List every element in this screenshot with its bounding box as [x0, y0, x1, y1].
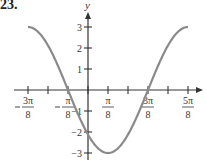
svg-text:8: 8 — [146, 109, 151, 120]
svg-text:8: 8 — [186, 109, 191, 120]
svg-text:π: π — [105, 95, 110, 106]
y-tick-label: 1 — [77, 64, 82, 75]
svg-text:5π: 5π — [183, 95, 193, 106]
svg-text:3π: 3π — [23, 95, 33, 106]
y-tick-label: −3 — [71, 148, 82, 159]
y-axis-arrow-icon — [85, 12, 91, 19]
svg-text:8: 8 — [106, 109, 111, 120]
function-plot: y321−1−2−33π8π8π83π85π8 — [0, 0, 207, 166]
y-axis-label: y — [84, 0, 90, 11]
y-tick-label: 2 — [77, 43, 82, 54]
x-tick-label: π8 — [102, 95, 114, 120]
y-tick-label: −2 — [71, 127, 82, 138]
svg-text:8: 8 — [66, 109, 71, 120]
svg-text:8: 8 — [26, 109, 31, 120]
x-tick-label: 5π8 — [182, 95, 194, 120]
y-tick-label: 3 — [77, 22, 82, 33]
x-axis-arrow-icon — [196, 87, 203, 93]
x-tick-label: 3π8 — [15, 95, 34, 120]
